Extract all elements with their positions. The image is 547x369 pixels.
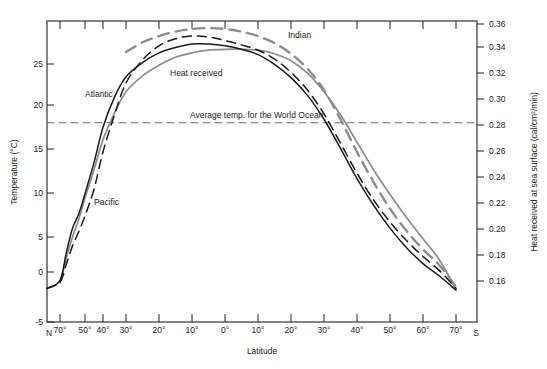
x-tick-label: 60° bbox=[417, 325, 430, 335]
x-tick-label: 10° bbox=[186, 325, 199, 335]
x-hemisphere-south: S bbox=[473, 328, 479, 338]
y-left-tick-label: 5 bbox=[38, 232, 43, 242]
x-tick-label: 10° bbox=[252, 325, 265, 335]
x-tick-label: 40° bbox=[97, 325, 110, 335]
y-axis-left-title: Temperature (°C) bbox=[9, 139, 19, 204]
x-axis-title: Latitude bbox=[247, 346, 278, 356]
top-axis-ticks bbox=[60, 21, 456, 29]
x-tick-label: 50° bbox=[384, 325, 397, 335]
x-tick-label: 20° bbox=[285, 325, 298, 335]
average-temp-label: Average temp. for the World Ocean bbox=[190, 110, 324, 120]
x-tick-label: 70° bbox=[54, 325, 67, 335]
ocean-temperature-chart: N 70° 50° 40° 30° 20° 10° 0° 10° 20° 30°… bbox=[0, 0, 547, 369]
y-right-tick-label: 0.28 bbox=[489, 120, 506, 130]
x-tick-label: 30° bbox=[318, 325, 331, 335]
y-left-tick-label: -5 bbox=[35, 317, 43, 327]
indian-label: Indian bbox=[288, 30, 311, 40]
x-tick-label: 70° bbox=[450, 325, 463, 335]
series-heat-received bbox=[60, 49, 456, 289]
x-tick-label: 40° bbox=[351, 325, 364, 335]
y-right-tick-label: 0.36 bbox=[489, 19, 506, 29]
y-right-tick-label: 0.30 bbox=[489, 94, 506, 104]
heat-received-label: Heat received bbox=[170, 68, 223, 78]
y-right-tick-label: 0.24 bbox=[489, 172, 506, 182]
y-right-tick-label: 0.26 bbox=[489, 146, 506, 156]
y-left-tick-label: 15 bbox=[34, 144, 44, 154]
x-tick-label: 50° bbox=[79, 325, 92, 335]
series-group bbox=[47, 28, 477, 290]
y-right-tick-label: 0.16 bbox=[489, 276, 506, 286]
x-axis-tick-labels: N 70° 50° 40° 30° 20° 10° 0° 10° 20° 30°… bbox=[46, 325, 479, 338]
x-tick-label: 0° bbox=[221, 325, 229, 335]
x-tick-label: 30° bbox=[120, 325, 133, 335]
x-tick-label: 20° bbox=[153, 325, 166, 335]
atlantic-label: Atlantic bbox=[85, 89, 114, 99]
y-right-tick-label: 0.32 bbox=[489, 68, 506, 78]
series-pacific bbox=[47, 36, 456, 288]
y-left-tick-label: 25 bbox=[34, 59, 44, 69]
series-annotations: Indian Atlantic Heat received Pacific Av… bbox=[85, 30, 324, 207]
y-left-tick-label: 0 bbox=[38, 267, 43, 277]
x-hemisphere-north: N bbox=[46, 328, 52, 338]
left-axis-tick-labels: -5 0 5 10 15 20 25 bbox=[34, 59, 44, 327]
bottom-axis-ticks bbox=[60, 314, 456, 322]
right-axis-tick-labels: 0.16 0.18 0.20 0.22 0.24 0.26 0.28 0.30 … bbox=[489, 19, 506, 286]
series-atlantic bbox=[47, 44, 456, 290]
y-right-tick-label: 0.22 bbox=[489, 198, 506, 208]
y-left-tick-label: 20 bbox=[34, 100, 44, 110]
y-right-tick-label: 0.34 bbox=[489, 42, 506, 52]
y-left-tick-label: 10 bbox=[34, 188, 44, 198]
left-axis-ticks bbox=[47, 64, 54, 322]
y-axis-right-title: Heat received at sea surface (cal/cm²/mi… bbox=[529, 92, 539, 252]
plot-frame bbox=[47, 21, 477, 322]
pacific-label: Pacific bbox=[94, 197, 120, 207]
y-right-tick-label: 0.18 bbox=[489, 250, 506, 260]
y-right-tick-label: 0.20 bbox=[489, 224, 506, 234]
right-axis-ticks bbox=[477, 24, 484, 281]
chart-svg: N 70° 50° 40° 30° 20° 10° 0° 10° 20° 30°… bbox=[0, 0, 547, 369]
